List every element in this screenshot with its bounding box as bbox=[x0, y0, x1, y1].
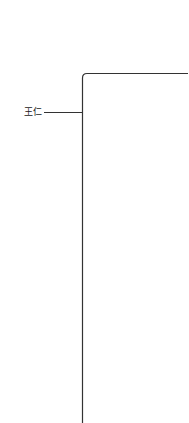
bracket-trunk-line bbox=[83, 74, 189, 423]
root-node-label: 王仁 bbox=[24, 106, 42, 118]
bracket-connector bbox=[0, 0, 188, 423]
